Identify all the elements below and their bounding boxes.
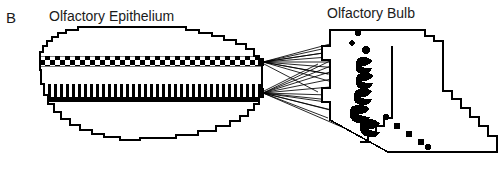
olfactory-epithelium [38, 27, 266, 140]
receptor-band-checkerboard [38, 56, 266, 66]
olfactory-bulb-label: Olfactory Bulb [327, 5, 415, 21]
figure-panel-b: B Olfactory Epithelium Olfactory Bulb [0, 0, 503, 169]
panel-label: B [6, 9, 16, 26]
olfactory-bulb [322, 30, 497, 152]
diagram-canvas [0, 0, 503, 169]
receptor-band-bars [38, 84, 266, 102]
olfactory-epithelium-label: Olfactory Epithelium [49, 8, 174, 24]
epithelium-outline [40, 27, 262, 140]
